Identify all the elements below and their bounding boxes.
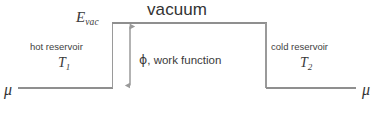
- t1-subscript: 1: [66, 62, 71, 72]
- vacuum-label: vacuum: [147, 1, 207, 18]
- phi-symbol: ϕ: [139, 52, 147, 67]
- evac-subscript: vac: [85, 17, 99, 27]
- cold-temperature-label: T2: [300, 56, 312, 72]
- work-function-label: ϕ, work function: [139, 54, 221, 67]
- vacuum-energy-label: Evac: [76, 10, 99, 28]
- t2-base: T: [300, 55, 308, 70]
- work-function-text: , work function: [147, 54, 221, 66]
- mu-label-right: μ: [362, 82, 370, 98]
- mu-label-left: μ: [4, 82, 12, 98]
- t2-subscript: 2: [308, 62, 313, 72]
- t1-base: T: [58, 55, 66, 70]
- hot-reservoir-label: hot reservoir: [30, 42, 83, 52]
- energy-band-diagram: vacuum Evac hot reservoir T1 ϕ, work fun…: [0, 0, 384, 119]
- cold-reservoir-label: cold reservoir: [271, 42, 328, 52]
- evac-base: E: [76, 9, 85, 25]
- hot-temperature-label: T1: [58, 56, 70, 72]
